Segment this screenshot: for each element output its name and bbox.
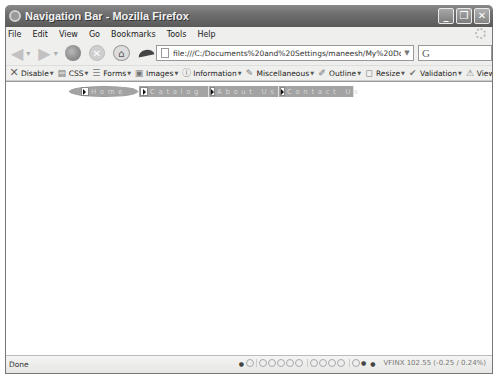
back-history-dropdown[interactable]: ▾ xyxy=(26,49,30,58)
menu-edit[interactable]: Edit xyxy=(32,30,48,39)
minimize-button[interactable]: _ xyxy=(438,8,454,24)
smiley-icon[interactable] xyxy=(337,359,345,367)
dev-miscellaneous-menu[interactable]: ✎ Miscellaneous ▼ xyxy=(245,68,314,78)
chevron-down-icon: ▼ xyxy=(174,70,178,76)
stop-button[interactable]: ✕ xyxy=(89,45,105,61)
url-input[interactable]: file:///C:/Documents%20and%20Settings/ma… xyxy=(173,49,401,58)
arrow-bullet-icon xyxy=(210,87,215,96)
disable-icon: ✕ xyxy=(9,68,19,78)
throbber-icon xyxy=(475,28,486,39)
url-history-dropdown[interactable]: ▼ xyxy=(401,46,413,60)
smiley-icon[interactable] xyxy=(259,359,267,367)
status-dot-icon: ● xyxy=(361,359,366,367)
dev-information-label: Information xyxy=(193,69,236,78)
status-dot-icon: ● xyxy=(239,360,244,367)
menu-tools[interactable]: Tools xyxy=(167,30,187,39)
status-icon-group-2 xyxy=(307,359,347,367)
menu-view[interactable]: View xyxy=(59,30,78,39)
menu-bookmarks[interactable]: Bookmarks xyxy=(111,30,156,39)
chevron-down-icon: ▼ xyxy=(310,70,314,76)
nav-link-contact-us[interactable]: Contact Us xyxy=(279,86,354,97)
outline-icon: ✐ xyxy=(317,68,327,78)
dev-view-source-label: View Source xyxy=(477,69,492,78)
smiley-icon[interactable] xyxy=(277,359,285,367)
nav-link-label: Contact Us xyxy=(287,88,363,96)
window-controls: _ ❐ ✕ xyxy=(438,8,490,24)
chevron-down-icon: ▼ xyxy=(127,70,131,76)
chevron-down-icon: ▼ xyxy=(401,70,405,76)
smiley-icon[interactable] xyxy=(328,359,336,367)
forward-history-dropdown[interactable]: ▾ xyxy=(54,49,58,58)
dev-disable-label: Disable xyxy=(21,69,49,78)
menu-file[interactable]: File xyxy=(8,30,21,39)
page-content: Home Catalog About Us Contact Us xyxy=(6,81,492,356)
firefox-icon xyxy=(9,10,21,22)
validation-icon: ✔ xyxy=(408,68,418,78)
home-button[interactable]: ⌂ xyxy=(113,45,130,61)
resize-icon: ◻ xyxy=(364,68,374,78)
web-developer-toolbar: ✕ Disable ▼ ▤ CSS ▼ ☰ Forms ▼ ▣ Images ▼… xyxy=(6,65,492,81)
dev-view-source-button[interactable]: ⚠ View Source xyxy=(465,68,492,78)
smiley-icon[interactable] xyxy=(295,359,303,367)
smiley-icon[interactable] xyxy=(319,359,327,367)
chevron-down-icon: ▼ xyxy=(458,70,462,76)
forward-button[interactable]: ▶ xyxy=(38,44,50,63)
maximize-button[interactable]: ❐ xyxy=(456,8,472,24)
nav-link-label: Catalog xyxy=(150,88,204,96)
status-bar: Done ● ● xyxy=(6,356,492,373)
arrow-bullet-icon xyxy=(81,87,89,96)
chevron-down-icon: ▼ xyxy=(84,70,88,76)
view-source-icon: ⚠ xyxy=(465,68,475,78)
dev-css-label: CSS xyxy=(69,69,84,78)
dev-resize-label: Resize xyxy=(376,69,400,78)
navigation-toolbar: ◀ ▾ ▶ ▾ ✕ ⌂ file:///C:/Documents%20and%2… xyxy=(6,41,492,65)
page-navigation-bar: Home Catalog About Us Contact Us xyxy=(61,86,354,97)
status-icons: ● ● ● xyxy=(239,359,486,367)
url-bar[interactable]: file:///C:/Documents%20and%20Settings/ma… xyxy=(156,45,414,61)
window-title: Navigation Bar - Mozilla Firefox xyxy=(25,10,189,22)
nav-link-about-us[interactable]: About Us xyxy=(209,86,279,97)
nav-link-catalog[interactable]: Catalog xyxy=(139,86,209,97)
nav-link-home[interactable]: Home xyxy=(69,86,139,97)
menu-bar: File Edit View Go Bookmarks Tools Help xyxy=(6,27,492,41)
menu-go[interactable]: Go xyxy=(89,30,100,39)
smiley-icon[interactable] xyxy=(310,359,318,367)
search-engine-icon[interactable]: G xyxy=(422,47,430,59)
dev-images-menu[interactable]: ▣ Images ▼ xyxy=(134,68,178,78)
title-bar: Navigation Bar - Mozilla Firefox _ ❐ ✕ xyxy=(5,5,493,27)
extension-leaf-icon[interactable] xyxy=(137,48,154,57)
menu-help[interactable]: Help xyxy=(197,30,215,39)
miscellaneous-icon: ✎ xyxy=(245,68,255,78)
reload-button[interactable] xyxy=(65,45,81,61)
chevron-down-icon: ▼ xyxy=(238,70,242,76)
page-icon xyxy=(161,48,169,58)
dev-information-menu[interactable]: ⓘ Information ▼ xyxy=(181,68,241,78)
back-button[interactable]: ◀ xyxy=(11,44,23,63)
dev-outline-label: Outline xyxy=(329,69,356,78)
stock-ticker[interactable]: VFINX 102.55 (-0.25 / 0.24%) xyxy=(384,359,486,367)
smiley-icon[interactable] xyxy=(286,359,294,367)
dev-validation-menu[interactable]: ✔ Validation ▼ xyxy=(408,68,462,78)
search-box[interactable]: G xyxy=(418,45,492,61)
nav-link-label: Home xyxy=(91,88,128,96)
forms-icon: ☰ xyxy=(91,68,101,78)
nav-link-label: About Us xyxy=(217,88,280,96)
information-icon: ⓘ xyxy=(181,68,191,78)
dev-miscellaneous-label: Miscellaneous xyxy=(257,69,310,78)
browser-frame: File Edit View Go Bookmarks Tools Help ◀… xyxy=(5,27,493,374)
chevron-down-icon: ▼ xyxy=(357,70,361,76)
dev-disable-menu[interactable]: ✕ Disable ▼ xyxy=(9,68,54,78)
smiley-icon[interactable] xyxy=(352,359,360,367)
status-icon-group-3: ● xyxy=(349,359,368,367)
smiley-icon[interactable] xyxy=(268,359,276,367)
dev-forms-label: Forms xyxy=(103,69,126,78)
dev-css-menu[interactable]: ▤ CSS ▼ xyxy=(57,68,89,78)
dev-forms-menu[interactable]: ☰ Forms ▼ xyxy=(91,68,131,78)
dev-outline-menu[interactable]: ✐ Outline ▼ xyxy=(317,68,361,78)
close-button[interactable]: ✕ xyxy=(474,8,490,24)
status-addon-icon[interactable] xyxy=(246,359,254,367)
dev-resize-menu[interactable]: ◻ Resize ▼ xyxy=(364,68,405,78)
browser-window: Navigation Bar - Mozilla Firefox _ ❐ ✕ F… xyxy=(0,0,503,379)
status-text: Done xyxy=(9,360,29,369)
dev-validation-label: Validation xyxy=(420,69,457,78)
